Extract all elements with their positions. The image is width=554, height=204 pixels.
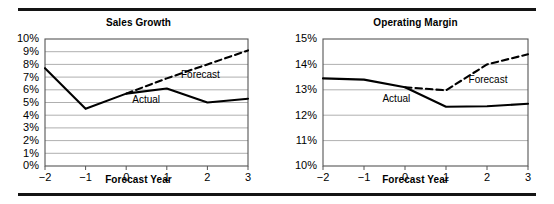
bottom-rule: [18, 193, 536, 196]
y-tick-label: 2%: [23, 134, 39, 146]
series-line-forecast: [405, 54, 528, 90]
y-tick-label: 6%: [23, 83, 39, 95]
y-tick-label: 3%: [23, 121, 39, 133]
y-tick-label: 1%: [23, 147, 39, 159]
x-axis-title-operating-margin: Forecast Year: [277, 174, 554, 186]
series-annotation-actual: Actual: [382, 93, 410, 104]
figure-container: Sales Growth 0%1%2%3%4%5%6%7%8%9%10%−2−1…: [0, 0, 554, 204]
y-tick-label: 14%: [295, 58, 317, 70]
y-tick-label: 9%: [23, 45, 39, 57]
y-tick-label: 5%: [23, 96, 39, 108]
plot-frame: [323, 39, 528, 166]
plot-area-operating-margin: 10%11%12%13%14%15%−2−10123ForecastActual: [277, 11, 554, 193]
y-tick-label: 7%: [23, 71, 39, 83]
series-annotation-actual: Actual: [132, 94, 160, 105]
chart-panel-sales-growth: Sales Growth 0%1%2%3%4%5%6%7%8%9%10%−2−1…: [0, 11, 277, 193]
y-tick-label: 10%: [17, 32, 39, 44]
y-tick-label: 0%: [23, 159, 39, 171]
y-tick-label: 4%: [23, 109, 39, 121]
y-tick-label: 8%: [23, 58, 39, 70]
series-annotation-forecast: Forecast: [181, 69, 220, 80]
plot-area-sales-growth: 0%1%2%3%4%5%6%7%8%9%10%−2−10123ForecastA…: [0, 11, 277, 193]
y-tick-label: 15%: [295, 32, 317, 44]
series-annotation-forecast: Forecast: [469, 74, 508, 85]
x-axis-title-sales-growth: Forecast Year: [0, 174, 277, 186]
y-tick-label: 10%: [295, 159, 317, 171]
chart-panel-operating-margin: Operating Margin 10%11%12%13%14%15%−2−10…: [277, 11, 554, 193]
y-tick-label: 12%: [295, 109, 317, 121]
y-tick-label: 11%: [296, 134, 317, 146]
y-tick-label: 13%: [295, 83, 317, 95]
